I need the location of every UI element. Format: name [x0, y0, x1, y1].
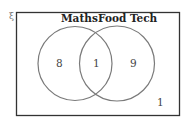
region-maths-only: 8 [56, 57, 63, 69]
region-outside: 1 [157, 96, 164, 108]
region-intersection: 1 [93, 57, 100, 69]
set-circle-maths [38, 27, 112, 101]
universal-set-symbol: ξ [9, 11, 14, 21]
venn-diagram: ξ Maths Food Tech 8 1 9 1 [0, 0, 184, 118]
region-food-tech-only: 9 [130, 57, 137, 69]
set-circle-food-tech [80, 26, 155, 101]
set-label-food-tech: Food Tech [98, 12, 158, 24]
set-label-maths: Maths [61, 12, 98, 24]
